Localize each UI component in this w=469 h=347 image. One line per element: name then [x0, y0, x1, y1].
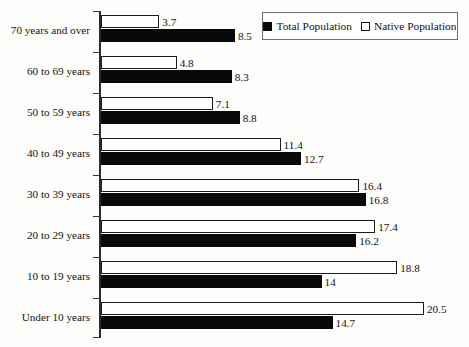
bar-native-population[interactable]: 20.5 — [101, 302, 424, 315]
bar-total-population[interactable]: 16.2 — [101, 234, 356, 247]
hollow-square-icon — [361, 22, 370, 31]
bar-native-population[interactable]: 4.8 — [101, 56, 177, 69]
bar-total-population[interactable]: 12.7 — [101, 152, 301, 165]
bar-value-label: 16.2 — [359, 235, 379, 247]
bar-group: 40 to 49 years 11.4 12.7 — [0, 136, 469, 177]
bar-total-population[interactable]: 14 — [101, 275, 322, 288]
bar-value-label: 8.8 — [243, 112, 257, 124]
plot-area: 70 years and over 3.7 8.5 60 to 69 years… — [0, 0, 469, 347]
bar-value-label: 14 — [325, 276, 336, 288]
bar-native-population[interactable]: 16.4 — [101, 179, 359, 192]
category-label: 60 to 69 years — [0, 65, 90, 78]
legend-label: Native Population — [374, 20, 457, 32]
category-label: 50 to 59 years — [0, 106, 90, 119]
bar-group: 50 to 59 years 7.1 8.8 — [0, 95, 469, 136]
bar-total-population[interactable]: 16.8 — [101, 193, 366, 206]
chart-legend: Total Population Native Population — [262, 12, 458, 40]
bar-group: 60 to 69 years 4.8 8.3 — [0, 54, 469, 95]
y-axis-tick — [93, 11, 100, 12]
bar-value-label: 14.7 — [336, 317, 356, 329]
bar-total-population[interactable]: 8.3 — [101, 70, 232, 83]
bar-native-population[interactable]: 3.7 — [101, 15, 159, 28]
bar-value-label: 16.8 — [369, 194, 389, 206]
bar-group: Under 10 years 20.5 14.7 — [0, 300, 469, 341]
bar-chart: 70 years and over 3.7 8.5 60 to 69 years… — [0, 0, 469, 347]
bar-value-label: 3.7 — [162, 16, 176, 28]
filled-square-icon — [263, 22, 272, 31]
bar-native-population[interactable]: 7.1 — [101, 97, 213, 110]
legend-item-total-population[interactable]: Total Population — [263, 20, 351, 32]
category-label: 70 years and over — [0, 24, 90, 37]
category-label: Under 10 years — [0, 311, 90, 324]
bar-native-population[interactable]: 18.8 — [101, 261, 397, 274]
bar-group: 20 to 29 years 17.4 16.2 — [0, 218, 469, 259]
bar-value-label: 8.5 — [238, 30, 252, 42]
bar-value-label: 16.4 — [362, 180, 382, 192]
bar-total-population[interactable]: 14.7 — [101, 316, 333, 329]
legend-item-native-population[interactable]: Native Population — [361, 20, 457, 32]
bar-value-label: 12.7 — [304, 153, 324, 165]
bar-value-label: 11.4 — [284, 139, 303, 151]
bar-group: 10 to 19 years 18.8 14 — [0, 259, 469, 300]
bar-value-label: 4.8 — [180, 57, 194, 69]
category-label: 10 to 19 years — [0, 270, 90, 283]
bar-value-label: 8.3 — [235, 71, 249, 83]
bar-value-label: 20.5 — [427, 303, 447, 315]
bar-value-label: 18.8 — [400, 262, 420, 274]
bar-total-population[interactable]: 8.8 — [101, 111, 240, 124]
bar-native-population[interactable]: 11.4 — [101, 138, 281, 151]
legend-label: Total Population — [276, 20, 351, 32]
bar-group: 30 to 39 years 16.4 16.8 — [0, 177, 469, 218]
bar-value-label: 7.1 — [216, 98, 230, 110]
bar-native-population[interactable]: 17.4 — [101, 220, 375, 233]
category-label: 40 to 49 years — [0, 147, 90, 160]
bar-total-population[interactable]: 8.5 — [101, 29, 235, 42]
category-label: 20 to 29 years — [0, 229, 90, 242]
category-label: 30 to 39 years — [0, 188, 90, 201]
bar-value-label: 17.4 — [378, 221, 398, 233]
